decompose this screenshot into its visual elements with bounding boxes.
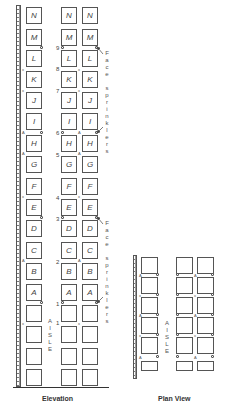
in-rack-symbol: A (194, 274, 197, 278)
plan-sprinkler (156, 293, 159, 296)
plan-cell (141, 297, 158, 314)
plan-cell (141, 277, 158, 294)
plan-cell-partial (141, 361, 158, 371)
plan-sprinkler (156, 355, 159, 358)
plan-cell (197, 317, 214, 334)
plan-cell-partial (176, 361, 193, 371)
plan-sprinkler (176, 273, 179, 276)
plan-sprinkler (211, 355, 214, 358)
in-rack-symbol: A (139, 274, 142, 278)
plan-cell-partial (197, 361, 214, 371)
plan-cell (141, 257, 158, 274)
flue-sprinkler-symbol: x (194, 294, 196, 298)
plan-cell (176, 277, 193, 294)
flue-sprinkler-symbol: x (139, 294, 141, 298)
plan-sprinkler (176, 293, 179, 296)
plan-sprinkler (176, 333, 179, 336)
plan-cell (197, 337, 214, 354)
plan-cell (197, 297, 214, 314)
wall-ladder-plan (133, 255, 137, 379)
aisle-label-plan: A I S L E (164, 320, 170, 355)
plan-sprinkler (211, 293, 214, 296)
in-rack-symbol: A (194, 356, 197, 360)
plan-cell (197, 277, 214, 294)
plan-sprinkler (156, 313, 159, 316)
plan-sprinkler (211, 313, 214, 316)
plan-sprinkler (211, 333, 214, 336)
elevation-caption: Elevation (42, 395, 73, 402)
flue-sprinkler-symbol: x (194, 334, 196, 338)
in-rack-symbol: A (194, 314, 197, 318)
plan-cell (197, 257, 214, 274)
plan-cell (176, 257, 193, 274)
flue-sprinkler-symbol: x (139, 334, 141, 338)
plan-sprinkler (211, 273, 214, 276)
plan-cell (176, 337, 193, 354)
plan-cell (176, 317, 193, 334)
plan-cell (141, 317, 158, 334)
plan-sprinkler (156, 273, 159, 276)
in-rack-symbol: A (139, 314, 142, 318)
plan-sprinkler (176, 355, 179, 358)
plan-sprinkler (156, 333, 159, 336)
plan-sprinkler (176, 313, 179, 316)
plan-cell (141, 337, 158, 354)
in-rack-symbol: A (139, 356, 142, 360)
plan-view-caption: Plan View (158, 395, 191, 402)
plan-cell (176, 297, 193, 314)
